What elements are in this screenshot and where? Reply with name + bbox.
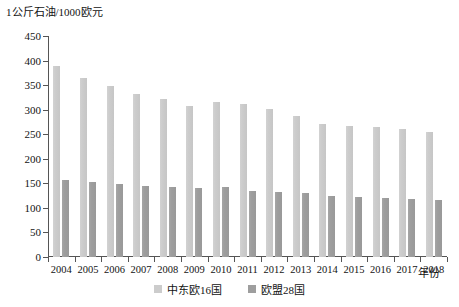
legend-swatch-icon	[154, 285, 162, 293]
bar-2015-series-2	[355, 197, 362, 257]
bar-2016-series-2	[382, 198, 389, 257]
x-tick-label-2012: 2012	[264, 264, 285, 275]
y-tick-mark	[43, 85, 48, 86]
bar-group	[399, 36, 415, 257]
y-axis-line	[48, 36, 49, 257]
x-tick-mark	[447, 257, 448, 262]
y-tick-mark	[43, 208, 48, 209]
x-tick-mark	[420, 257, 421, 262]
bar-group	[213, 36, 229, 257]
x-tick-label-2016: 2016	[370, 264, 391, 275]
y-tick-mark	[43, 61, 48, 62]
x-tick-label-2014: 2014	[317, 264, 338, 275]
x-tick-label-2009: 2009	[184, 264, 205, 275]
bar-2017-series-2	[408, 199, 415, 257]
x-tick-mark	[48, 257, 49, 262]
bar-2010-series-2	[222, 187, 229, 257]
bar-2011-series-2	[249, 191, 256, 257]
x-tick-label-2006: 2006	[104, 264, 125, 275]
bar-2014-series-1	[319, 124, 326, 257]
y-tick-label: 250	[25, 128, 42, 140]
x-tick-mark	[394, 257, 395, 262]
bar-group	[80, 36, 96, 257]
legend-item-1[interactable]: 中东欧16国	[154, 281, 222, 297]
bar-2008-series-1	[160, 99, 167, 257]
x-tick-label-2008: 2008	[157, 264, 178, 275]
x-tick-mark	[234, 257, 235, 262]
x-axis-title: 年份	[418, 264, 440, 280]
y-tick-label: 50	[30, 226, 41, 238]
x-tick-label-2015: 2015	[343, 264, 364, 275]
y-tick-label: 0	[36, 251, 42, 263]
bar-2015-series-1	[346, 126, 353, 257]
x-tick-label-2010: 2010	[210, 264, 231, 275]
x-tick-mark	[128, 257, 129, 262]
bar-2013-series-2	[302, 193, 309, 257]
plot-area: 050100150200250300350400450 200420052006…	[48, 36, 447, 257]
y-tick-mark	[43, 232, 48, 233]
y-tick-mark	[43, 134, 48, 135]
bar-2016-series-1	[373, 127, 380, 257]
bar-group	[373, 36, 389, 257]
bar-2011-series-1	[240, 104, 247, 257]
y-tick-label: 150	[25, 177, 42, 189]
x-tick-label-2005: 2005	[77, 264, 98, 275]
y-tick-label: 300	[25, 104, 42, 116]
bar-2013-series-1	[293, 116, 300, 257]
bar-2018-series-2	[435, 200, 442, 257]
bar-group	[240, 36, 256, 257]
bar-2006-series-2	[116, 184, 123, 257]
bar-group	[53, 36, 69, 257]
bar-chart: 1公斤石油/1000欧元 050100150200250300350400450…	[0, 0, 459, 307]
y-axis-unit-label: 1公斤石油/1000欧元	[6, 6, 103, 19]
bar-2005-series-2	[89, 182, 96, 257]
bar-2007-series-1	[133, 94, 140, 257]
x-tick-label-2007: 2007	[131, 264, 152, 275]
x-tick-mark	[154, 257, 155, 262]
bar-2005-series-1	[80, 78, 87, 257]
legend-label: 中东欧16国	[167, 281, 222, 297]
bar-group	[186, 36, 202, 257]
x-tick-mark	[287, 257, 288, 262]
x-tick-label-2004: 2004	[51, 264, 72, 275]
bar-2017-series-1	[399, 129, 406, 257]
x-tick-label-2013: 2013	[290, 264, 311, 275]
bar-2010-series-1	[213, 102, 220, 257]
y-tick-label: 450	[25, 30, 42, 42]
x-tick-label-2011: 2011	[237, 264, 258, 275]
x-tick-mark	[208, 257, 209, 262]
legend-item-2[interactable]: 欧盟28国	[248, 281, 305, 297]
legend-label: 欧盟28国	[261, 281, 305, 297]
x-tick-mark	[314, 257, 315, 262]
bar-2012-series-2	[275, 192, 282, 257]
bar-2018-series-1	[426, 132, 433, 257]
x-tick-mark	[341, 257, 342, 262]
bar-group	[133, 36, 149, 257]
x-tick-mark	[367, 257, 368, 262]
bar-group	[426, 36, 442, 257]
x-tick-mark	[101, 257, 102, 262]
bar-group	[160, 36, 176, 257]
y-tick-label: 100	[25, 202, 42, 214]
bar-2008-series-2	[169, 187, 176, 257]
y-tick-mark	[43, 159, 48, 160]
y-tick-label: 350	[25, 79, 42, 91]
bar-2012-series-1	[266, 109, 273, 257]
y-tick-mark	[43, 183, 48, 184]
bar-2007-series-2	[142, 186, 149, 257]
y-tick-mark	[43, 36, 48, 37]
legend-swatch-icon	[248, 285, 256, 293]
x-tick-label-2017: 2017	[397, 264, 418, 275]
bar-2004-series-2	[62, 180, 69, 257]
x-tick-mark	[75, 257, 76, 262]
bar-2004-series-1	[53, 66, 60, 257]
bar-2006-series-1	[107, 86, 114, 257]
bar-2014-series-2	[328, 196, 335, 257]
bar-group	[266, 36, 282, 257]
bar-group	[346, 36, 362, 257]
bar-group	[319, 36, 335, 257]
bar-2009-series-1	[186, 106, 193, 257]
chart-legend: 中东欧16国欧盟28国	[0, 281, 459, 297]
y-tick-label: 200	[25, 153, 42, 165]
bar-group	[293, 36, 309, 257]
